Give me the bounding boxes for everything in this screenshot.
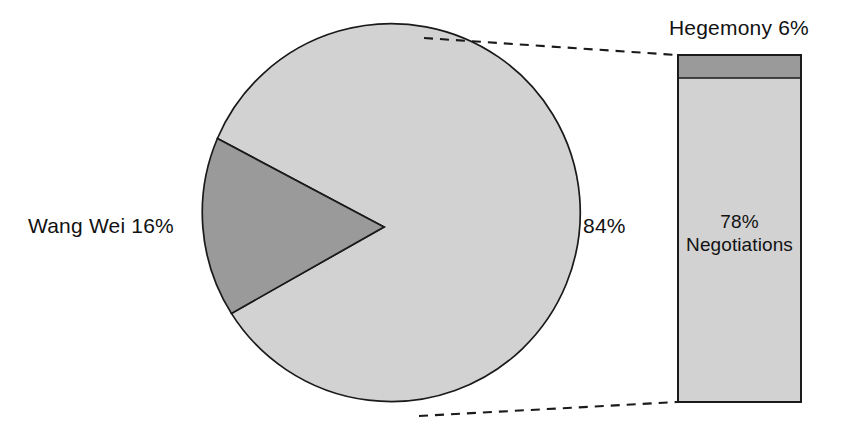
- leader-line-bottom: [419, 402, 677, 416]
- pie-bar-of-pie-figure: Wang Wei 16% 84% Hegemony 6% 78% Negotia…: [0, 0, 844, 439]
- pie-slice-label-major: 84%: [583, 213, 626, 239]
- bar-segment-label-negotiations: 78% Negotiations: [678, 210, 801, 256]
- bar-segment-hegemony: [678, 55, 801, 78]
- negotiations-name: Negotiations: [678, 233, 801, 256]
- pie-slice-label-wang-wei: Wang Wei 16%: [28, 213, 174, 239]
- negotiations-percent: 78%: [720, 211, 758, 232]
- bar-segment-label-hegemony: Hegemony 6%: [669, 15, 809, 41]
